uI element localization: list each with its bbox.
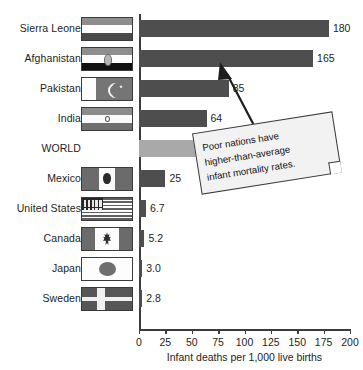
x-tick	[139, 329, 140, 334]
bar	[139, 50, 313, 67]
x-tick	[245, 329, 246, 334]
bar	[139, 260, 142, 277]
x-tick	[271, 329, 272, 334]
bar	[139, 140, 198, 157]
bar-value-label: 180	[333, 20, 351, 37]
bar-value-label: 165	[317, 50, 335, 67]
x-tick-label: 200	[330, 336, 363, 349]
infant-mortality-bar-chart: Sierra LeoneAfghanistanPakistanIndiaWORL…	[0, 0, 363, 370]
x-tick	[324, 329, 325, 334]
bar	[139, 170, 165, 187]
bar-value-label: 85	[233, 80, 245, 97]
bar-value-label: 25	[169, 170, 181, 187]
x-tick	[350, 329, 351, 334]
plot-area: 180165856456256.75.23.02.8 0255075100125…	[0, 0, 363, 370]
callout-text: Poor nations have higher-than-average in…	[201, 120, 334, 184]
x-tick	[192, 329, 193, 334]
bar	[139, 200, 146, 217]
x-tick	[165, 329, 166, 334]
bar	[139, 20, 329, 37]
x-tick	[218, 329, 219, 334]
bar-value-label: 2.8	[146, 290, 161, 307]
callout-fold-corner	[328, 161, 342, 175]
bar	[139, 80, 229, 97]
bar	[139, 290, 142, 307]
bar-value-label: 3.0	[146, 260, 161, 277]
bar-value-label: 6.7	[150, 200, 165, 217]
bar-value-label: 5.2	[148, 230, 163, 247]
x-tick	[297, 329, 298, 334]
bar	[139, 110, 207, 127]
bar-value-label: 64	[211, 110, 223, 127]
x-axis-label: Infant deaths per 1,000 live births	[139, 351, 350, 363]
bar	[139, 230, 144, 247]
